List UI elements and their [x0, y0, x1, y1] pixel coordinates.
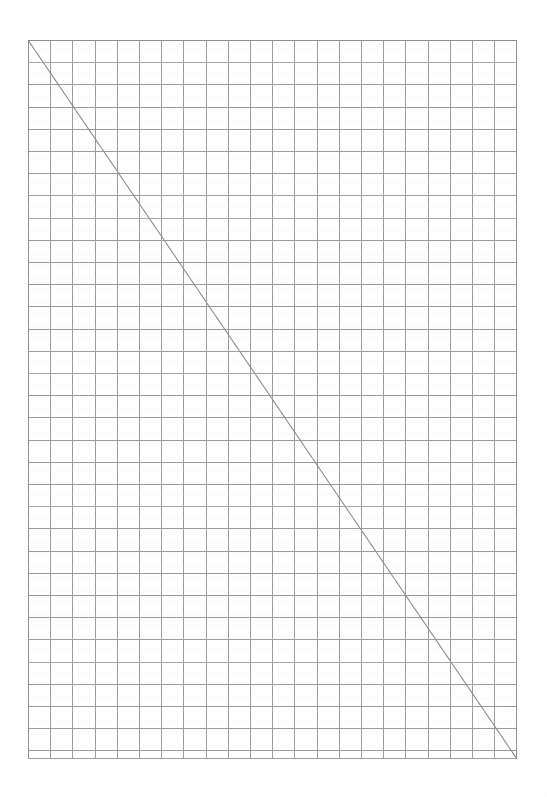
vertical-grid-lines [28, 40, 517, 759]
grid-top-border [28, 40, 517, 41]
grid-lines [28, 40, 517, 759]
grid-left-border [28, 40, 29, 759]
graph-paper-page [0, 0, 547, 797]
grid-area [28, 40, 517, 759]
grid-right-border [516, 40, 517, 759]
grid-bottom-border [28, 758, 517, 759]
